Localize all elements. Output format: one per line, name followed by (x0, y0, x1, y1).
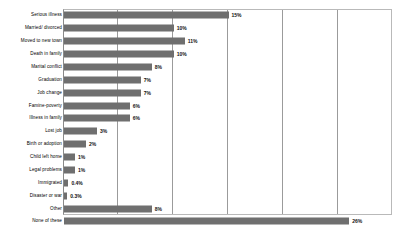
bar-row: Death in family10% (0, 48, 406, 61)
category-label: Illness in family (29, 116, 62, 121)
bar (64, 218, 349, 225)
bar-row: Job change7% (0, 86, 406, 99)
bar (64, 102, 130, 109)
category-label: Job change (37, 90, 62, 95)
value-label: 15% (232, 13, 242, 18)
value-label: 11% (188, 39, 198, 44)
category-label: Birth or adoption (27, 142, 62, 147)
category-label: Married/ divorced (25, 26, 62, 31)
bar (64, 128, 97, 135)
category-label: Death in family (30, 52, 62, 57)
bar-row: Lost job3% (0, 125, 406, 138)
bar (64, 38, 185, 45)
bar (64, 166, 75, 173)
value-label: 6% (133, 116, 140, 121)
bar (64, 205, 152, 212)
bar (64, 141, 86, 148)
value-label: 7% (144, 77, 151, 82)
category-label: Moved to new town (21, 39, 62, 44)
category-label: Child left home (30, 155, 62, 160)
category-label: Lost job (45, 129, 62, 134)
bar-row: Marital conflict8% (0, 61, 406, 74)
bar (64, 12, 229, 19)
bar-chart: Serious illness15%Married/ divorced10%Mo… (0, 0, 406, 226)
category-label: Disaster or war (30, 193, 62, 198)
bar-row: Married/ divorced10% (0, 22, 406, 35)
bar-row: Moved to new town11% (0, 35, 406, 48)
category-label: Serious illness (31, 13, 62, 18)
value-label: 8% (155, 206, 162, 211)
category-label: Marital conflict (31, 65, 62, 70)
value-label: 1% (78, 167, 85, 172)
bar (64, 51, 174, 58)
value-label: 0.3% (70, 193, 81, 198)
category-label: Other (50, 206, 62, 211)
value-label: 3% (100, 129, 107, 134)
bar (64, 76, 141, 83)
value-label: 1% (78, 155, 85, 160)
value-label: 2% (89, 142, 96, 147)
bar (64, 89, 141, 96)
category-label: Legal problems (29, 168, 62, 173)
bar (64, 192, 67, 199)
value-label: 10% (177, 26, 187, 31)
value-label: 6% (133, 103, 140, 108)
bar (64, 115, 130, 122)
bar (64, 179, 68, 186)
bar-row: Other8% (0, 202, 406, 215)
bar-row: Graduation7% (0, 73, 406, 86)
bar-row: None of these26% (0, 215, 406, 226)
value-label: 7% (144, 90, 151, 95)
bar-row: Child left home1% (0, 151, 406, 164)
bar-row: Immigrated0.4% (0, 176, 406, 189)
category-label: Immigrated (38, 181, 62, 186)
category-label: None of these (32, 219, 62, 224)
bar-row: Famine-poverty6% (0, 99, 406, 112)
bar (64, 25, 174, 32)
bar-row: Serious illness15% (0, 9, 406, 22)
category-label: Graduation (38, 78, 62, 83)
value-label: 0.4% (71, 180, 82, 185)
bar-rows: Serious illness15%Married/ divorced10%Mo… (0, 9, 406, 215)
value-label: 8% (155, 64, 162, 69)
bar-row: Disaster or war0.3% (0, 189, 406, 202)
bar (64, 154, 75, 161)
bar (64, 63, 152, 70)
bar-row: Illness in family6% (0, 112, 406, 125)
bar-row: Legal problems1% (0, 164, 406, 177)
value-label: 10% (177, 52, 187, 57)
category-label: Famine-poverty (29, 103, 62, 108)
bar-row: Birth or adoption2% (0, 138, 406, 151)
value-label: 26% (352, 219, 362, 224)
